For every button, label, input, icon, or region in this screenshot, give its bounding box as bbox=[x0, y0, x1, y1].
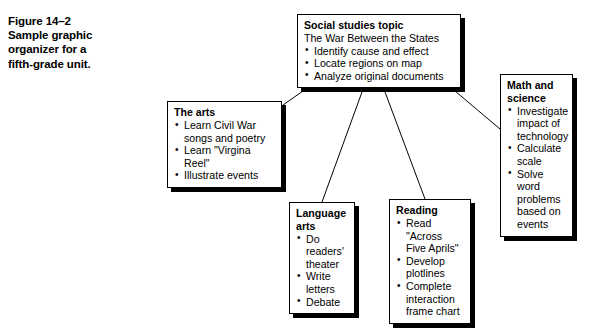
node-item-list: • Read "Across Five Aprils" • Develop pl… bbox=[396, 217, 465, 318]
bullet-icon: • bbox=[397, 254, 401, 267]
node-title: Math and science bbox=[507, 79, 567, 104]
list-item-text: Solve word problems based on events bbox=[517, 168, 567, 231]
bullet-icon: • bbox=[305, 44, 309, 57]
bullet-icon: • bbox=[397, 280, 401, 293]
bullet-icon: • bbox=[175, 144, 179, 157]
list-item: • Complete interaction frame chart bbox=[396, 280, 465, 318]
node-item-list: • Investigate impact of technology • Cal… bbox=[507, 105, 567, 231]
node-title: Language arts bbox=[296, 207, 349, 232]
bullet-icon: • bbox=[508, 104, 512, 117]
list-item: • Learn "Virgina Reel" bbox=[174, 144, 276, 169]
list-item: • Read "Across Five Aprils" bbox=[396, 217, 465, 255]
bullet-icon: • bbox=[305, 69, 309, 82]
node-item-list: • Identify cause and effect • Locate reg… bbox=[304, 45, 455, 83]
connector-center-to-language bbox=[322, 92, 362, 202]
list-item-text: Locate regions on map bbox=[314, 57, 455, 70]
list-item-text: Debate bbox=[306, 296, 349, 309]
bullet-icon: • bbox=[508, 142, 512, 155]
node-the-arts: The arts • Learn Civil War songs and poe… bbox=[167, 101, 282, 188]
node-reading: Reading • Read "Across Five Aprils" • De… bbox=[389, 199, 471, 324]
list-item-text: Analyze original documents bbox=[314, 70, 455, 83]
list-item: • Learn Civil War songs and poetry bbox=[174, 119, 276, 144]
list-item: • Do readers' theater bbox=[296, 233, 349, 271]
bullet-icon: • bbox=[297, 232, 301, 245]
list-item-text: Learn "Virgina Reel" bbox=[184, 144, 276, 169]
list-item-text: Calculate scale bbox=[517, 142, 567, 167]
list-item-text: Write letters bbox=[306, 270, 349, 295]
list-item-text: Investigate impact of technology bbox=[517, 105, 567, 143]
list-item: • Investigate impact of technology bbox=[507, 105, 567, 143]
list-item: • Solve word problems based on events bbox=[507, 168, 567, 231]
list-item-text: Do readers' theater bbox=[306, 233, 349, 271]
node-math-and-science: Math and science • Investigate impact of… bbox=[500, 74, 573, 237]
bullet-icon: • bbox=[297, 270, 301, 283]
bullet-icon: • bbox=[297, 295, 301, 308]
bullet-icon: • bbox=[508, 167, 512, 180]
list-item: • Calculate scale bbox=[507, 142, 567, 167]
node-item-list: • Learn Civil War songs and poetry • Lea… bbox=[174, 119, 276, 182]
bullet-icon: • bbox=[305, 57, 309, 70]
list-item: • Debate bbox=[296, 296, 349, 309]
node-subtitle: The War Between the States bbox=[304, 32, 455, 45]
connector-center-to-reading bbox=[385, 92, 425, 199]
node-title: Reading bbox=[396, 204, 465, 217]
connector-center-to-arts bbox=[283, 91, 303, 105]
node-social-studies-topic: Social studies topic The War Between the… bbox=[297, 14, 461, 88]
node-title: The arts bbox=[174, 106, 276, 119]
node-item-list: • Do readers' theater • Write letters • … bbox=[296, 233, 349, 309]
bullet-icon: • bbox=[175, 119, 179, 132]
list-item-text: Develop plotlines bbox=[406, 255, 465, 280]
connector-center-to-math bbox=[455, 91, 500, 129]
figure-graphic-organizer: Figure 14–2 Sample graphic organizer for… bbox=[0, 0, 602, 328]
bullet-icon: • bbox=[397, 217, 401, 230]
list-item: • Write letters bbox=[296, 270, 349, 295]
list-item: • Illustrate events bbox=[174, 169, 276, 182]
list-item: • Develop plotlines bbox=[396, 255, 465, 280]
list-item: • Analyze original documents bbox=[304, 70, 455, 83]
list-item-text: Learn Civil War songs and poetry bbox=[184, 119, 276, 144]
node-language-arts: Language arts • Do readers' theater • Wr… bbox=[289, 202, 355, 314]
bullet-icon: • bbox=[175, 169, 179, 182]
list-item-text: Illustrate events bbox=[184, 169, 276, 182]
list-item: • Locate regions on map bbox=[304, 57, 455, 70]
node-title: Social studies topic bbox=[304, 19, 455, 32]
list-item-text: Read "Across Five Aprils" bbox=[406, 217, 465, 255]
list-item-text: Identify cause and effect bbox=[314, 45, 455, 58]
list-item: • Identify cause and effect bbox=[304, 45, 455, 58]
list-item-text: Complete interaction frame chart bbox=[406, 280, 465, 318]
